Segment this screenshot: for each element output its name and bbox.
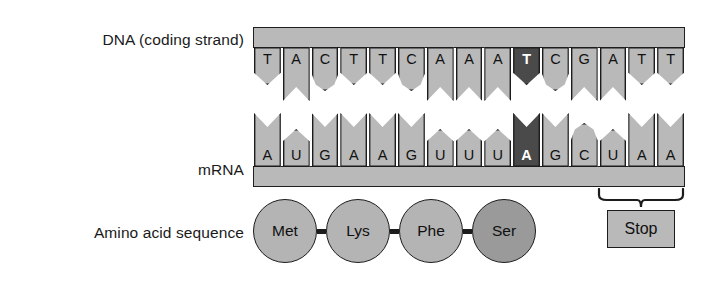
- dna-base-letter: T: [263, 52, 272, 67]
- amino-acid-label: Lys: [346, 223, 370, 239]
- mrna-base-letter: U: [435, 148, 445, 163]
- mrna-base-8: U: [484, 129, 511, 167]
- dna-base-8: A: [484, 47, 511, 101]
- stop-label: Stop: [625, 221, 658, 237]
- dna-base-5: C: [398, 47, 425, 91]
- mrna-base-5: G: [398, 113, 425, 167]
- dna-base-letter: T: [349, 52, 358, 67]
- mrna-base-letter: U: [291, 148, 301, 163]
- dna-base-letter: G: [579, 52, 590, 67]
- dna-base-letter: A: [291, 52, 301, 67]
- dna-base-strip: TACTTCAAATCGATT: [253, 47, 685, 103]
- dna-base-0: T: [254, 47, 281, 85]
- mrna-base-letter: U: [464, 148, 474, 163]
- mrna-base-9: A: [513, 113, 540, 167]
- dna-base-13: T: [628, 47, 655, 85]
- peptide-bond: [317, 229, 326, 234]
- amino-acid-ser: Ser: [472, 199, 536, 263]
- amino-acid-label: Phe: [417, 223, 445, 239]
- mrna-base-letter: U: [608, 148, 618, 163]
- dna-base-letter: A: [608, 52, 618, 67]
- mrna-base-letter: A: [349, 148, 359, 163]
- amino-acid-label: Met: [272, 223, 298, 239]
- dna-base-letter: A: [435, 52, 445, 67]
- mrna-base-letter: G: [406, 148, 417, 163]
- mrna-base-letter: A: [263, 148, 273, 163]
- dna-base-9: T: [513, 47, 540, 85]
- mrna-base-letter: G: [550, 148, 561, 163]
- mrna-base-12: U: [600, 129, 627, 167]
- dna-base-letter: A: [464, 52, 474, 67]
- dna-base-letter: A: [493, 52, 503, 67]
- mrna-base-2: G: [312, 113, 339, 167]
- dna-base-7: A: [456, 47, 483, 101]
- genetic-code-diagram: DNA (coding strand) mRNA Amino acid sequ…: [0, 0, 703, 301]
- dna-base-4: T: [369, 47, 396, 85]
- mrna-base-letter: A: [666, 148, 676, 163]
- amino-acid-met: Met: [253, 199, 317, 263]
- mrna-base-13: A: [628, 113, 655, 167]
- amino-acid-chain: MetLysPheSer: [253, 198, 543, 264]
- mrna-base-1: U: [283, 129, 310, 167]
- mrna-base-3: A: [340, 113, 367, 167]
- mrna-base-11: C: [571, 123, 598, 167]
- amino-acid-row-label: Amino acid sequence: [94, 224, 244, 242]
- amino-acid-phe: Phe: [399, 199, 463, 263]
- dna-base-letter: T: [378, 52, 387, 67]
- mrna-base-4: A: [369, 113, 396, 167]
- dna-base-2: C: [312, 47, 339, 91]
- mrna-base-10: G: [542, 113, 569, 167]
- mrna-base-0: A: [254, 113, 281, 167]
- dna-base-letter: C: [550, 52, 560, 67]
- peptide-bond: [463, 229, 472, 234]
- amino-acid-label: Ser: [492, 223, 516, 239]
- mrna-base-strip: AUGAAGUUUAGCUAA: [253, 111, 685, 167]
- stop-codon-box: Stop: [607, 210, 675, 248]
- dna-base-14: T: [657, 47, 684, 85]
- mrna-base-letter: G: [319, 148, 330, 163]
- dna-base-letter: T: [666, 52, 675, 67]
- mrna-base-letter: C: [579, 148, 589, 163]
- peptide-bond: [390, 229, 399, 234]
- dna-base-6: A: [427, 47, 454, 101]
- dna-base-10: C: [542, 47, 569, 91]
- mrna-backbone-bar: [253, 166, 685, 187]
- mrna-row-label: mRNA: [198, 161, 244, 179]
- dna-base-letter: C: [320, 52, 330, 67]
- dna-row-label: DNA (coding strand): [103, 31, 244, 49]
- dna-base-letter: C: [406, 52, 416, 67]
- amino-acid-lys: Lys: [326, 199, 390, 263]
- mrna-base-letter: A: [521, 148, 531, 163]
- dna-base-letter: T: [637, 52, 646, 67]
- dna-base-11: G: [571, 47, 598, 101]
- mrna-base-letter: U: [493, 148, 503, 163]
- dna-base-letter: T: [522, 52, 531, 67]
- mrna-base-7: U: [456, 129, 483, 167]
- dna-base-3: T: [340, 47, 367, 85]
- mrna-base-14: A: [657, 113, 684, 167]
- mrna-base-6: U: [427, 129, 454, 167]
- mrna-base-letter: A: [378, 148, 388, 163]
- dna-backbone-bar: [253, 27, 685, 48]
- mrna-base-letter: A: [637, 148, 647, 163]
- dna-base-1: A: [283, 47, 310, 101]
- dna-base-12: A: [600, 47, 627, 101]
- stop-codon-brace-icon: [597, 188, 685, 208]
